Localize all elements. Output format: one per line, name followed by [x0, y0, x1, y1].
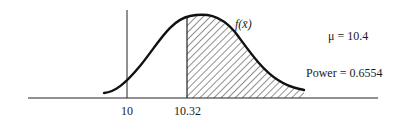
- power-curve-chart: 10 10.32 f(x̄) μ = 10.4 Power = 0.6554: [0, 0, 410, 123]
- tick-label-10: 10: [121, 104, 133, 118]
- shaded-power-region: [104, 15, 304, 98]
- power-annotation: Power = 0.6554: [306, 66, 382, 80]
- mu-annotation: μ = 10.4: [328, 29, 368, 43]
- curve-label: f(x̄): [235, 17, 252, 31]
- tick-label-10-32: 10.32: [174, 104, 201, 118]
